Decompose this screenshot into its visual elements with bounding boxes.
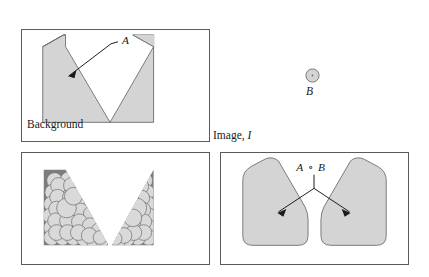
structuring-element-b-icon bbox=[305, 68, 320, 83]
background-label: Background bbox=[27, 119, 83, 131]
structuring-element-b-label: B bbox=[306, 86, 313, 98]
opening-result-label-a: A bbox=[295, 161, 303, 173]
rolling-ball-graphic bbox=[22, 153, 209, 264]
image-caption-variable: I bbox=[247, 129, 251, 141]
panel-rolling-ball-sweep bbox=[21, 152, 210, 265]
opening-result-label-operator: ∘ bbox=[308, 161, 314, 173]
opened-right-lobe bbox=[321, 158, 386, 246]
opening-result-label-b: B bbox=[318, 161, 325, 173]
right-lobe-ball-sweep bbox=[106, 173, 156, 249]
panel-opening-result: A ∘ B bbox=[220, 152, 409, 265]
image-caption-prefix: Image, bbox=[213, 129, 247, 141]
structuring-element-center-dot bbox=[312, 75, 314, 77]
set-a-label: A bbox=[121, 34, 129, 46]
left-lobe-ball-sweep bbox=[43, 172, 109, 249]
image-i-caption: Image, I bbox=[213, 130, 251, 142]
morphology-figure: A Background B Image, I bbox=[0, 0, 429, 277]
opening-result-graphic: A ∘ B bbox=[221, 153, 408, 264]
